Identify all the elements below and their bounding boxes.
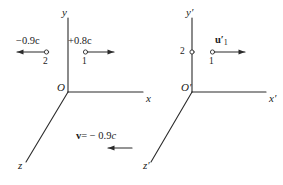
right-z-axis-line — [151, 92, 192, 162]
right-particle1-velocity-label: u′1 — [215, 35, 228, 47]
diagram-vector-graphics — [0, 0, 283, 185]
left-particle2-marker — [44, 50, 48, 54]
left-origin-label: O — [57, 82, 65, 93]
physics-diagram-figure: y x z O −0.9c 2 +0.8c 1 v= − 0.9c y′ x′ … — [0, 0, 283, 185]
right-particle2-marker — [190, 50, 194, 54]
left-particle1-speed-label: +0.8c — [68, 36, 92, 47]
right-particle1-marker — [210, 50, 214, 54]
right-particle1-velocity-symbol: u′ — [215, 34, 224, 45]
right-particle1-velocity-subscript: 1 — [224, 38, 228, 47]
left-particle2-speed-label: −0.9c — [16, 36, 40, 47]
left-particle1-marker — [83, 50, 87, 54]
left-particle2-arrow-head — [17, 49, 24, 54]
left-particle1-arrow-head — [108, 49, 115, 54]
left-particle2-number: 2 — [43, 57, 48, 67]
right-z-axis-label: z′ — [143, 160, 150, 171]
left-z-axis-label: z — [18, 160, 22, 171]
right-y-axis-label: y′ — [186, 7, 193, 18]
left-x-axis-label: x — [146, 93, 151, 104]
right-origin-label: O′ — [181, 82, 191, 93]
frame-velocity-arrow-head — [108, 146, 115, 151]
left-y-axis-label: y — [62, 7, 67, 18]
right-particle1-arrow-head — [239, 49, 246, 54]
right-x-axis-label: x′ — [269, 93, 276, 104]
frame-velocity-equals: = − 0.9 — [81, 130, 111, 141]
left-z-axis-line — [26, 92, 68, 162]
frame-velocity-unit: c — [111, 130, 116, 141]
frame-velocity-label: v= − 0.9c — [76, 131, 116, 142]
left-particle1-number: 1 — [82, 57, 87, 67]
right-particle2-tick-label: 2 — [180, 47, 185, 57]
right-particle1-number: 1 — [209, 57, 214, 67]
